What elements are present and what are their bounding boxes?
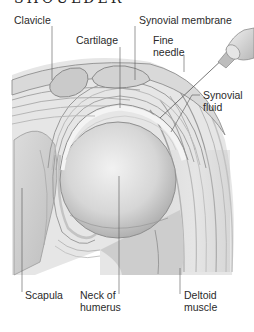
label-clavicle: Clavicle [14, 14, 51, 26]
label-neck-of-humerus-line2: humerus [80, 301, 121, 313]
label-synovial-fluid-line2: fluid [203, 101, 243, 113]
label-neck-of-humerus: Neck of humerus [80, 289, 121, 313]
label-deltoid-muscle-line2: muscle [184, 301, 217, 313]
label-deltoid-muscle-line1: Deltoid [184, 289, 217, 301]
label-fine-needle-line2: needle [153, 46, 185, 58]
label-scapula: Scapula [25, 289, 63, 301]
label-fine-needle: Fine needle [153, 34, 185, 58]
label-synovial-membrane: Synovial membrane [139, 14, 232, 26]
label-fine-needle-line1: Fine [153, 34, 185, 46]
label-synovial-fluid-line1: Synovial [203, 89, 243, 101]
humeral-head [60, 122, 176, 238]
label-synovial-fluid: Synovial fluid [203, 89, 243, 113]
label-neck-of-humerus-line1: Neck of [80, 289, 121, 301]
label-cartilage: Cartilage [76, 34, 118, 46]
label-deltoid-muscle: Deltoid muscle [184, 289, 217, 313]
shoulder-illustration [0, 0, 254, 332]
